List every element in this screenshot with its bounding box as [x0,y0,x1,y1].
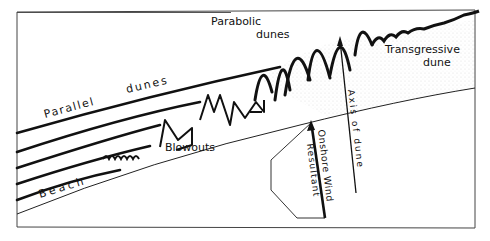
beach-ripples [103,156,139,159]
coastal-dune-diagram: Parallel dunes Parabolic dunes Transgres… [0,0,490,241]
label-parallel-dunes: dunes [125,73,170,95]
label-parallel: Parallel [42,95,96,121]
label-transgressive-dune: dune [423,56,451,69]
label-parabolic: Parabolic [211,15,261,28]
label-transgressive: Transgressive [384,43,460,56]
label-beach: Beach [37,174,88,201]
label-blowouts: Blowouts [165,141,215,154]
label-parabolic-dunes: dunes [256,28,290,41]
